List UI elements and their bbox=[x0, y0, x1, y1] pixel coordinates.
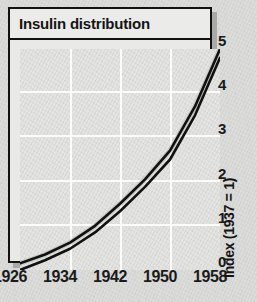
y-tick-1: 1 bbox=[218, 209, 226, 224]
y-tick-4: 4 bbox=[218, 77, 226, 92]
x-tick-1950: 1950 bbox=[143, 268, 177, 286]
y-tick-0: 0 bbox=[218, 254, 226, 269]
series-shadow bbox=[20, 49, 220, 263]
data-band bbox=[20, 49, 220, 270]
y-tick-3: 3 bbox=[218, 121, 226, 136]
x-tick-1958: 1958 bbox=[193, 268, 227, 286]
x-axis-ticks: 19261934194219501958 bbox=[0, 268, 257, 292]
x-tick-1942: 1942 bbox=[93, 268, 127, 286]
y-tick-5: 5 bbox=[218, 33, 226, 48]
chart-title-box: Insulin distribution bbox=[8, 7, 212, 40]
y-tick-2: 2 bbox=[218, 165, 226, 180]
plot-area bbox=[20, 49, 220, 270]
x-tick-1934: 1934 bbox=[43, 268, 77, 286]
series-lower-line bbox=[20, 58, 220, 270]
chart-title: Insulin distribution bbox=[10, 15, 150, 32]
chart-frame bbox=[8, 7, 212, 263]
series-upper-line bbox=[20, 49, 220, 263]
x-tick-1926: 1926 bbox=[0, 268, 27, 286]
